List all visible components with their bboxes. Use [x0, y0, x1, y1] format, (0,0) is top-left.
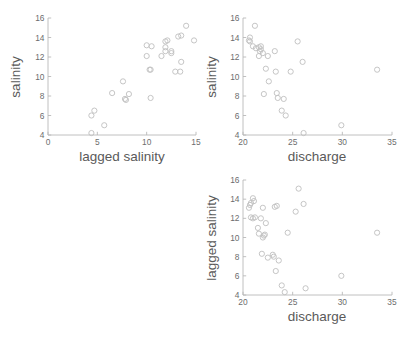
y-tick-label: 14: [230, 194, 240, 204]
data-point-marker: [273, 268, 278, 273]
x-axis-title: discharge: [288, 309, 347, 324]
plot-svg-salinity-vs-discharge: 20253035 46810121416 discharge salinity: [200, 0, 406, 170]
data-point-marker: [279, 108, 284, 113]
data-point-marker: [282, 290, 287, 295]
y-tick-label: 8: [40, 91, 45, 101]
data-point-marker: [191, 38, 196, 43]
y-axis-title: lagged salinity: [204, 195, 219, 281]
x-tick-label: 30: [338, 297, 348, 307]
data-point-marker: [265, 53, 270, 58]
data-point-marker: [263, 221, 268, 226]
x-tick-label: 0: [46, 137, 51, 147]
data-point-marker: [255, 225, 260, 230]
data-point-marker: [272, 49, 277, 54]
data-point-marker: [279, 283, 284, 288]
y-axis-title: salinity: [8, 56, 23, 98]
data-point-marker: [102, 123, 107, 128]
y-tick-label: 10: [230, 72, 240, 82]
x-tick-label: 30: [338, 137, 348, 147]
data-point-marker: [303, 286, 308, 291]
data-point-marker: [283, 113, 288, 118]
data-point-marker: [339, 273, 344, 278]
y-tick-label: 4: [235, 290, 240, 300]
y-tick-group: 46810121416: [35, 13, 51, 140]
y-tick-label: 16: [35, 13, 45, 23]
data-markers: [246, 23, 379, 135]
data-point-marker: [173, 69, 178, 74]
data-point-marker: [296, 186, 301, 191]
x-tick-label: 20: [238, 297, 248, 307]
data-point-marker: [120, 79, 125, 84]
data-point-marker: [159, 53, 164, 58]
y-tick-label: 14: [35, 33, 45, 43]
y-tick-label: 12: [35, 52, 45, 62]
data-point-marker: [293, 209, 298, 214]
plot-axes: [48, 18, 196, 135]
data-point-marker: [149, 44, 154, 49]
y-tick-group: 46810121416: [230, 13, 246, 140]
data-point-marker: [301, 201, 306, 206]
scatter-panel-lagged-salinity-vs-discharge: 20253035 46810121416 discharge lagged sa…: [200, 166, 406, 337]
x-tick-group: 051015: [46, 132, 201, 147]
data-point-marker: [275, 95, 280, 100]
y-tick-label: 8: [235, 252, 240, 262]
plot-svg-salinity-vs-lagged-salinity: 051015 46810121416 lagged salinity salin…: [0, 0, 203, 170]
data-markers: [246, 186, 379, 295]
x-tick-label: 5: [95, 137, 100, 147]
y-tick-group: 46810121416: [230, 175, 246, 300]
x-tick-label: 25: [288, 137, 298, 147]
y-tick-label: 6: [235, 271, 240, 281]
x-tick-label: 10: [142, 137, 152, 147]
data-point-marker: [258, 216, 263, 221]
x-tick-group: 20253035: [238, 132, 397, 147]
x-tick-label: 35: [387, 297, 397, 307]
data-point-marker: [179, 33, 184, 38]
data-point-marker: [179, 59, 184, 64]
data-point-marker: [184, 23, 189, 28]
x-axis-title: discharge: [288, 149, 347, 164]
plot-svg-lagged-salinity-vs-discharge: 20253035 46810121416 discharge lagged sa…: [200, 166, 406, 337]
data-point-marker: [288, 69, 293, 74]
data-point-marker: [252, 23, 257, 28]
data-point-marker: [260, 205, 265, 210]
data-point-marker: [178, 69, 183, 74]
y-tick-label: 14: [230, 33, 240, 43]
data-point-marker: [300, 59, 305, 64]
data-point-marker: [281, 96, 286, 101]
y-tick-label: 16: [230, 13, 240, 23]
y-tick-label: 6: [40, 111, 45, 121]
plot-axes: [243, 18, 392, 135]
data-markers: [89, 23, 197, 135]
scatter-panel-salinity-vs-lagged-salinity: 051015 46810121416 lagged salinity salin…: [0, 0, 203, 170]
data-point-marker: [110, 90, 115, 95]
y-axis-title: salinity: [204, 56, 219, 98]
data-point-marker: [144, 53, 149, 58]
data-point-marker: [89, 113, 94, 118]
scatter-panel-salinity-vs-discharge: 20253035 46810121416 discharge salinity: [200, 0, 406, 170]
data-point-marker: [163, 45, 168, 50]
x-tick-label: 35: [387, 137, 397, 147]
data-point-marker: [263, 66, 268, 71]
y-tick-label: 4: [40, 130, 45, 140]
data-point-marker: [266, 79, 271, 84]
y-tick-label: 12: [230, 52, 240, 62]
data-point-marker: [339, 123, 344, 128]
data-point-marker: [375, 230, 380, 235]
y-tick-label: 16: [230, 175, 240, 185]
data-point-marker: [92, 108, 97, 113]
x-tick-group: 20253035: [238, 292, 397, 307]
data-point-marker: [148, 95, 153, 100]
y-tick-label: 8: [235, 91, 240, 101]
data-point-marker: [265, 255, 270, 260]
data-point-marker: [261, 91, 266, 96]
x-axis-title: lagged salinity: [79, 149, 165, 164]
x-tick-label: 25: [288, 297, 298, 307]
y-tick-label: 10: [230, 233, 240, 243]
data-point-marker: [285, 230, 290, 235]
x-tick-label: 20: [238, 137, 248, 147]
y-tick-label: 6: [235, 111, 240, 121]
data-point-marker: [276, 258, 281, 263]
data-point-marker: [126, 91, 131, 96]
data-point-marker: [273, 69, 278, 74]
y-tick-label: 4: [235, 130, 240, 140]
